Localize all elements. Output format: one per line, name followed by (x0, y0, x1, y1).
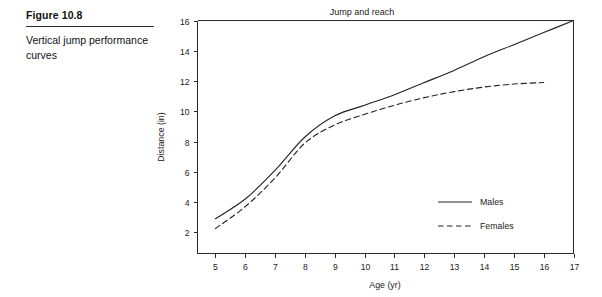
y-axis-title: Distance (in) (156, 112, 166, 161)
y-tick-label: 4 (185, 198, 190, 208)
x-tick-label: 5 (213, 262, 218, 272)
x-tick-label: 6 (243, 262, 248, 272)
figure-caption-text: Vertical jump performance curves (26, 33, 154, 62)
figure-caption-block: Figure 10.8 Vertical jump performance cu… (26, 9, 154, 62)
x-tick-label: 9 (333, 262, 338, 272)
x-tick-label: 7 (273, 262, 278, 272)
data-series (215, 21, 573, 229)
y-tick-label: 12 (180, 77, 190, 87)
chart-title: Jump and reach (330, 7, 395, 17)
legend: MalesFemales (438, 197, 514, 231)
x-tick-label: 14 (480, 262, 490, 272)
figure-container: Figure 10.8 Vertical jump performance cu… (0, 0, 602, 297)
figure-number: Figure 10.8 (26, 9, 154, 22)
x-tick-label: 16 (540, 262, 550, 272)
y-tick-label: 6 (185, 168, 190, 178)
chart-svg: Jump and reach 246810121416 567891011121… (150, 0, 602, 297)
series-line-males (215, 21, 573, 219)
legend-label-males: Males (480, 197, 504, 207)
y-tick-label: 16 (180, 17, 190, 27)
y-tick-label: 10 (180, 107, 190, 117)
axes (198, 21, 574, 254)
x-axis-title: Age (yr) (369, 280, 400, 290)
x-tick-label: 8 (303, 262, 308, 272)
x-tick-label: 13 (450, 262, 460, 272)
x-tick-label: 15 (510, 262, 520, 272)
y-axis-ticks: 246810121416 (180, 17, 198, 238)
y-tick-label: 8 (185, 138, 190, 148)
caption-divider (26, 26, 154, 27)
legend-label-females: Females (480, 221, 514, 231)
y-tick-label: 2 (185, 228, 190, 238)
y-tick-label: 14 (180, 47, 190, 57)
x-tick-label: 10 (361, 262, 371, 272)
x-tick-label: 11 (390, 262, 399, 272)
x-tick-label: 12 (420, 262, 430, 272)
x-axis-ticks: 567891011121314151617 (213, 254, 579, 272)
x-tick-label: 17 (570, 262, 580, 272)
chart: Jump and reach 246810121416 567891011121… (150, 0, 602, 297)
